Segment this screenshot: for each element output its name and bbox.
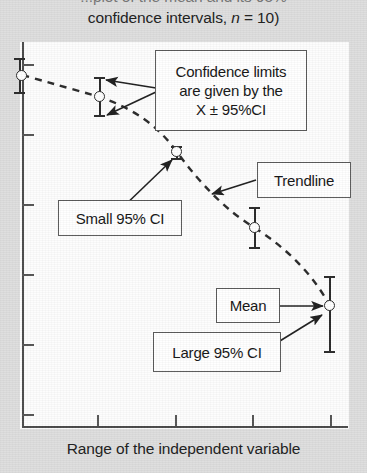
x-axis-label: Range of the independent variable xyxy=(0,440,367,458)
error-bar-cap-bottom xyxy=(94,115,105,117)
error-bar-cap-top xyxy=(249,207,260,209)
error-bar-cap-top xyxy=(324,276,335,278)
callout-confidence-limits: Confidence limits are given by the X ± 9… xyxy=(155,50,307,131)
caption-line-1-clipped: ...plot of the mean and its 95% xyxy=(0,0,367,7)
callout-trendline-label: Trendline xyxy=(274,171,334,190)
data-point-marker xyxy=(249,222,260,233)
figure-caption: ...plot of the mean and its 95% confiden… xyxy=(0,0,367,28)
error-bar-cap-bottom xyxy=(171,158,182,160)
callout-small-ci: Small 95% CI xyxy=(58,200,182,236)
error-bar-line xyxy=(329,276,331,353)
caption-line-2: confidence intervals, n = 10) xyxy=(88,9,279,26)
callout-mean-label: Mean xyxy=(230,296,267,315)
callout-confidence-limits-line2: are given by the xyxy=(176,81,287,100)
error-bar-cap-top xyxy=(14,58,25,60)
error-bar-cap-bottom xyxy=(14,92,25,94)
data-point-marker xyxy=(171,146,182,157)
callout-trendline: Trendline xyxy=(257,162,351,198)
data-point-marker xyxy=(324,300,335,311)
error-bar-cap-bottom xyxy=(249,247,260,249)
error-bar-cap-top xyxy=(94,77,105,79)
callout-mean: Mean xyxy=(216,288,280,323)
callout-confidence-limits-line3: X ± 95%CI xyxy=(176,100,287,119)
data-point-marker xyxy=(94,91,105,102)
callout-large-ci: Large 95% CI xyxy=(153,332,281,372)
callout-small-ci-label: Small 95% CI xyxy=(76,209,164,228)
data-point-marker xyxy=(16,70,27,81)
error-bar-cap-bottom xyxy=(324,351,335,353)
callout-large-ci-label: Large 95% CI xyxy=(172,343,261,362)
callout-confidence-limits-line1: Confidence limits xyxy=(176,62,287,81)
